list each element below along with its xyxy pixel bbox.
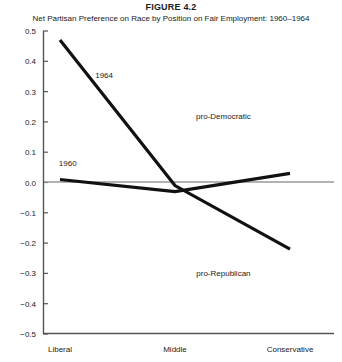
y-axis-tick-label: −0.3 <box>20 269 36 278</box>
x-axis-category-label: Conservative <box>267 345 314 354</box>
figure-container: FIGURE 4.2 Net Partisan Preference on Ra… <box>0 0 342 362</box>
series-inline-labels: 19641960 <box>59 71 114 168</box>
y-axis-tick-label: −0.5 <box>20 330 36 339</box>
y-axis-tick-label: −0.4 <box>20 300 36 309</box>
line-chart: 0.50.40.30.20.10.0−0.1−0.2−0.3−0.4−0.5 L… <box>0 0 342 362</box>
y-axis-tick-label: 0.5 <box>25 27 37 36</box>
chart-svg: 0.50.40.30.20.10.0−0.1−0.2−0.3−0.4−0.5 L… <box>0 0 342 362</box>
y-axis-tick-label: 0.4 <box>25 57 37 66</box>
y-axis-tick-label: 0.0 <box>25 179 37 188</box>
x-axis-category-label: Middle <box>163 345 187 354</box>
chart-annotations: pro-Democraticpro-Republican <box>196 112 251 279</box>
x-axis-labels: LiberalMiddleConservative <box>48 345 314 354</box>
y-axis-tick-label: 0.2 <box>25 118 37 127</box>
y-axis-tick-label: −0.2 <box>20 239 36 248</box>
annotation-pro-democratic: pro-Democratic <box>196 112 251 121</box>
x-axis-category-label: Liberal <box>48 345 72 354</box>
series-label-1964: 1964 <box>95 71 113 80</box>
series-label-1960: 1960 <box>59 159 77 168</box>
annotation-pro-republican: pro-Republican <box>196 269 250 278</box>
y-axis-tick-label: 0.3 <box>25 88 37 97</box>
y-axis-tick-label: 0.1 <box>25 148 37 157</box>
y-axis-tick-label: −0.1 <box>20 209 36 218</box>
